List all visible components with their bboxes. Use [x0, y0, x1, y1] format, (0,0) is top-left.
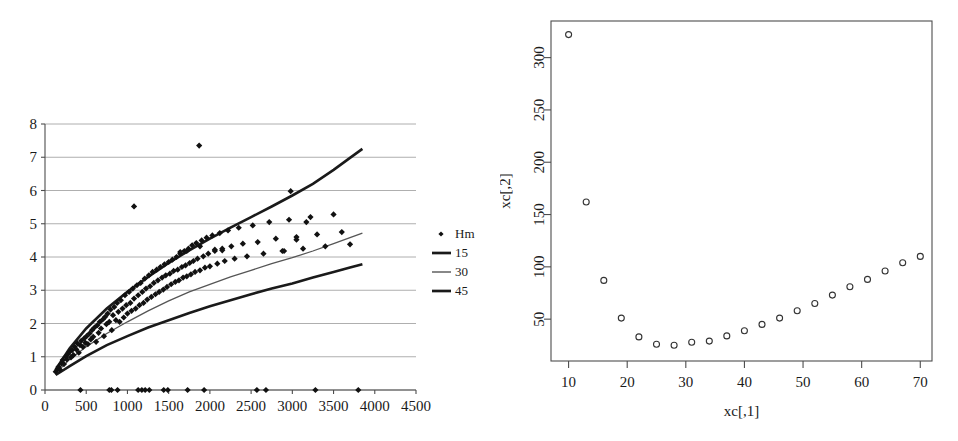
data-point-diamond — [222, 258, 228, 264]
data-point-diamond — [115, 309, 121, 315]
y-tick-label-150: 150 — [531, 203, 547, 226]
data-point-circle — [794, 308, 800, 314]
y-tick-label-4: 4 — [30, 249, 38, 265]
data-point-circle — [671, 342, 677, 348]
data-point-diamond — [146, 387, 152, 393]
y-tick-label-250: 250 — [531, 99, 547, 122]
data-point-circle — [636, 334, 642, 340]
right-x-ticks: 10203040506070 — [561, 361, 928, 390]
y-tick-label-200: 200 — [531, 151, 547, 174]
data-point-circle — [917, 253, 923, 259]
x-tick-label-60: 60 — [854, 374, 869, 390]
data-point-diamond — [202, 265, 208, 271]
data-point-diamond — [228, 243, 234, 249]
x-tick-label-2500: 2500 — [236, 398, 266, 414]
right-y-axis-title: xc[,2] — [500, 173, 513, 208]
x-tick-label-3500: 3500 — [319, 398, 349, 414]
left-y-tick-labels: 012345678 — [30, 116, 46, 398]
x-tick-label-2000: 2000 — [195, 398, 225, 414]
data-point-diamond — [286, 217, 292, 223]
data-point-diamond — [197, 267, 203, 273]
x-tick-label-30: 30 — [678, 374, 693, 390]
data-point-circle — [706, 338, 712, 344]
y-tick-label-100: 100 — [531, 256, 547, 279]
data-point-circle — [618, 315, 624, 321]
right-x-axis-title: xc[,1] — [724, 403, 759, 419]
left-chart-panel: 0123456780500100015002000250030003500400… — [0, 0, 500, 441]
data-point-diamond — [232, 256, 238, 262]
data-point-diamond — [266, 219, 272, 225]
data-point-diamond — [303, 219, 309, 225]
y-tick-label-6: 6 — [30, 183, 38, 199]
data-point-diamond — [330, 211, 336, 217]
x-tick-label-500: 500 — [75, 398, 98, 414]
data-point-diamond — [322, 243, 328, 249]
y-tick-label-8: 8 — [30, 116, 38, 132]
legend-label-Hm: Hm — [455, 226, 475, 241]
right-chart-svg: 5010015020025030010203040506070xc[,1]xc[… — [500, 0, 958, 441]
data-point-diamond — [355, 387, 361, 393]
data-point-diamond — [254, 387, 260, 393]
data-point-diamond — [307, 214, 313, 220]
data-point-diamond — [131, 203, 137, 209]
legend-label-30: 30 — [455, 264, 468, 279]
data-point-diamond — [165, 387, 171, 393]
data-point-diamond — [244, 253, 250, 259]
right-chart-panel: 5010015020025030010203040506070xc[,1]xc[… — [500, 0, 958, 441]
data-point-diamond — [314, 231, 320, 237]
data-point-diamond — [240, 241, 246, 247]
data-point-circle — [777, 315, 783, 321]
right-scatter-points — [566, 32, 924, 349]
y-tick-label-1: 1 — [30, 349, 38, 365]
right-y-ticks: 50100150200250300 — [531, 46, 551, 326]
data-point-diamond — [288, 188, 294, 194]
legend-label-15: 15 — [455, 245, 468, 260]
data-point-diamond — [255, 239, 261, 245]
data-point-diamond — [260, 251, 266, 257]
y-tick-label-7: 7 — [30, 149, 38, 165]
y-tick-label-3: 3 — [30, 282, 38, 298]
left-x-tick-labels: 050010001500200025003000350040004500 — [41, 390, 431, 414]
y-tick-label-5: 5 — [30, 216, 38, 232]
data-point-circle — [847, 284, 853, 290]
figure-container: 0123456780500100015002000250030003500400… — [0, 0, 958, 441]
data-point-diamond — [214, 261, 220, 267]
y-tick-label-300: 300 — [531, 46, 547, 69]
y-tick-label-2: 2 — [30, 316, 38, 332]
x-tick-label-4000: 4000 — [360, 398, 390, 414]
x-tick-label-40: 40 — [737, 374, 752, 390]
x-tick-label-70: 70 — [913, 374, 928, 390]
legend-label-45: 45 — [455, 283, 468, 298]
x-tick-label-1000: 1000 — [112, 398, 142, 414]
x-tick-label-20: 20 — [620, 374, 635, 390]
right-plot-box — [551, 21, 932, 361]
data-point-diamond — [312, 387, 318, 393]
data-point-diamond — [110, 312, 116, 318]
x-tick-label-4500: 4500 — [401, 398, 431, 414]
data-point-circle — [601, 277, 607, 283]
data-point-diamond — [263, 387, 269, 393]
data-point-diamond — [185, 387, 191, 393]
data-point-circle — [900, 260, 906, 266]
data-point-circle — [583, 199, 589, 205]
data-point-diamond — [273, 236, 279, 242]
data-point-diamond — [121, 314, 127, 320]
data-point-circle — [654, 341, 660, 347]
x-tick-label-3000: 3000 — [277, 398, 307, 414]
data-point-diamond — [347, 241, 353, 247]
data-point-diamond — [201, 387, 207, 393]
left-legend: Hm153045 — [432, 226, 475, 298]
data-point-diamond — [250, 222, 256, 228]
left-chart-svg: 0123456780500100015002000250030003500400… — [0, 0, 500, 441]
x-tick-label-1500: 1500 — [154, 398, 184, 414]
data-point-diamond — [300, 246, 306, 252]
x-tick-label-50: 50 — [796, 374, 811, 390]
data-point-diamond — [135, 292, 141, 298]
data-point-circle — [882, 268, 888, 274]
data-point-circle — [741, 328, 747, 334]
data-point-circle — [865, 276, 871, 282]
legend-marker-Hm — [438, 231, 443, 236]
data-point-diamond — [207, 263, 213, 269]
y-tick-label-0: 0 — [30, 382, 38, 398]
data-point-diamond — [196, 143, 202, 149]
